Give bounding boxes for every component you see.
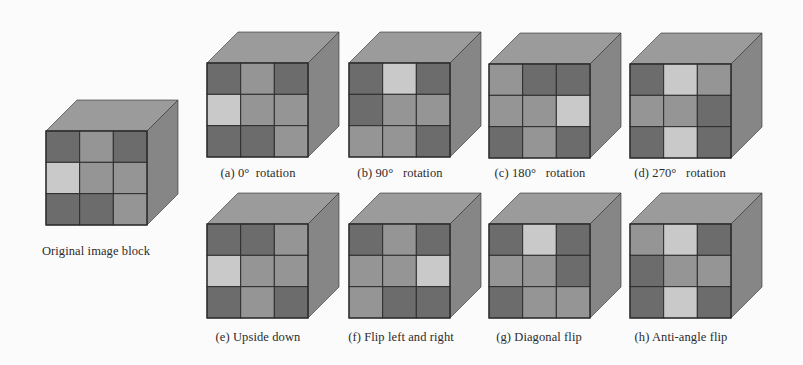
- grid-cell-dark-cell: [489, 224, 523, 255]
- caption-flip-left-right: (f) Flip left and right: [348, 330, 454, 345]
- grid-cell-light-cell: [523, 224, 557, 255]
- caption-180-degree-rotation: (c) 180° rotation: [495, 166, 586, 181]
- caption-diagonal-flip: (g) Diagonal flip: [496, 330, 582, 345]
- grid-cell-dark-cell: [489, 127, 523, 158]
- cube-graphic: [207, 32, 340, 158]
- grid-cell-dark-cell: [697, 224, 731, 255]
- cube-180-degree-rotation: [489, 33, 621, 158]
- cube-flip-left-right: [349, 193, 481, 318]
- cube-graphic: [46, 100, 179, 226]
- cube-graphic: [349, 193, 482, 319]
- grid-cell-medium-cell: [274, 224, 308, 255]
- grid-cell-dark-cell: [556, 224, 590, 255]
- grid-cell-light-cell: [383, 63, 417, 94]
- grid-cell-dark-cell: [489, 287, 523, 318]
- grid-cell-medium-cell: [80, 131, 114, 162]
- grid-cell-medium-cell: [241, 63, 275, 94]
- grid-cell-medium-cell: [523, 255, 557, 286]
- grid-cell-medium-cell: [274, 255, 308, 286]
- grid-cell-dark-cell: [416, 126, 450, 157]
- grid-cell-medium-cell: [489, 64, 523, 95]
- grid-cell-medium-cell: [416, 94, 450, 125]
- grid-cell-light-cell: [207, 255, 241, 286]
- grid-cell-dark-cell: [241, 224, 275, 255]
- caption-upside-down: (e) Upside down: [216, 330, 301, 345]
- grid-cell-light-cell: [207, 94, 241, 125]
- grid-cell-dark-cell: [630, 287, 664, 318]
- cube-graphic: [207, 193, 340, 319]
- cube-graphic: [349, 32, 482, 158]
- caption-original-image-block: Original image block: [42, 244, 150, 259]
- caption-anti-angle-flip: (h) Anti-angle flip: [635, 330, 728, 345]
- grid-cell-dark-cell: [697, 127, 731, 158]
- grid-cell-light-cell: [664, 287, 698, 318]
- grid-cell-dark-cell: [207, 287, 241, 318]
- grid-cell-medium-cell: [630, 95, 664, 126]
- grid-cell-medium-cell: [383, 224, 417, 255]
- grid-cell-medium-cell: [383, 255, 417, 286]
- cube-upside-down: [207, 193, 339, 318]
- grid-cell-dark-cell: [241, 126, 275, 157]
- grid-cell-medium-cell: [80, 162, 114, 193]
- grid-cell-light-cell: [416, 255, 450, 286]
- grid-cell-medium-cell: [383, 126, 417, 157]
- grid-cell-dark-cell: [630, 255, 664, 286]
- grid-cell-dark-cell: [349, 94, 383, 125]
- grid-cell-medium-cell: [241, 287, 275, 318]
- cube-graphic: [489, 193, 622, 319]
- grid-cell-medium-cell: [349, 255, 383, 286]
- grid-cell-dark-cell: [697, 287, 731, 318]
- grid-cell-dark-cell: [207, 126, 241, 157]
- grid-cell-dark-cell: [556, 127, 590, 158]
- grid-cell-dark-cell: [523, 64, 557, 95]
- cube-270-degree-rotation: [630, 33, 762, 158]
- grid-cell-medium-cell: [697, 64, 731, 95]
- grid-cell-medium-cell: [664, 255, 698, 286]
- cube-graphic: [489, 33, 622, 159]
- grid-cell-dark-cell: [556, 255, 590, 286]
- grid-cell-medium-cell: [274, 94, 308, 125]
- grid-cell-dark-cell: [349, 63, 383, 94]
- grid-cell-medium-cell: [489, 255, 523, 286]
- grid-cell-dark-cell: [207, 63, 241, 94]
- grid-cell-dark-cell: [556, 64, 590, 95]
- grid-cell-dark-cell: [207, 224, 241, 255]
- grid-cell-medium-cell: [523, 287, 557, 318]
- grid-cell-dark-cell: [697, 95, 731, 126]
- grid-cell-light-cell: [664, 127, 698, 158]
- grid-cell-medium-cell: [523, 95, 557, 126]
- grid-cell-dark-cell: [349, 224, 383, 255]
- cube-diagonal-flip: [489, 193, 621, 318]
- grid-cell-medium-cell: [664, 95, 698, 126]
- grid-cell-medium-cell: [349, 287, 383, 318]
- grid-cell-dark-cell: [383, 287, 417, 318]
- grid-cell-dark-cell: [416, 224, 450, 255]
- grid-cell-medium-cell: [113, 162, 147, 193]
- grid-cell-dark-cell: [274, 287, 308, 318]
- cube-anti-angle-flip: [630, 193, 762, 318]
- grid-cell-medium-cell: [489, 95, 523, 126]
- grid-cell-medium-cell: [697, 255, 731, 286]
- caption-270-degree-rotation: (d) 270° rotation: [634, 166, 726, 181]
- grid-cell-medium-cell: [113, 194, 147, 225]
- grid-cell-medium-cell: [349, 126, 383, 157]
- grid-cell-dark-cell: [416, 287, 450, 318]
- grid-cell-light-cell: [664, 64, 698, 95]
- grid-cell-light-cell: [46, 162, 80, 193]
- caption-90-degree-rotation: (b) 90° rotation: [357, 166, 442, 181]
- cube-graphic: [630, 193, 763, 319]
- grid-cell-medium-cell: [523, 127, 557, 158]
- cube-90-degree-rotation: [349, 32, 481, 157]
- grid-cell-dark-cell: [630, 127, 664, 158]
- grid-cell-medium-cell: [241, 255, 275, 286]
- cube-0-degree-rotation: [207, 32, 339, 157]
- cube-graphic: [630, 33, 763, 159]
- grid-cell-dark-cell: [46, 194, 80, 225]
- grid-cell-dark-cell: [630, 64, 664, 95]
- grid-cell-light-cell: [556, 95, 590, 126]
- grid-cell-dark-cell: [80, 194, 114, 225]
- grid-cell-medium-cell: [630, 224, 664, 255]
- grid-cell-medium-cell: [556, 287, 590, 318]
- grid-cell-dark-cell: [113, 131, 147, 162]
- grid-cell-dark-cell: [274, 63, 308, 94]
